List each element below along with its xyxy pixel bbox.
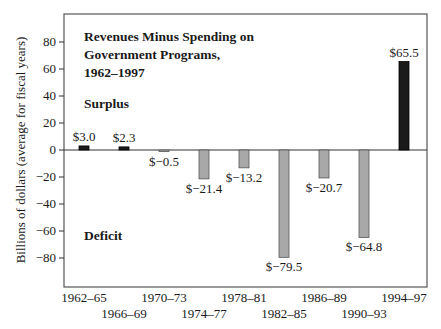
- x-tick-label: 1970–73: [134, 290, 194, 306]
- surplus-annotation: Surplus: [84, 95, 129, 113]
- bar: [199, 150, 209, 179]
- x-tick-label: 1982–85: [254, 306, 314, 322]
- y-axis-label: Billions of dollars (average for fiscal …: [13, 20, 29, 280]
- value-label: $−0.5: [139, 154, 189, 170]
- x-tick-label: 1994–97: [374, 290, 434, 306]
- title-line: Government Programs,: [84, 46, 254, 64]
- title-line: 1962–1997: [84, 64, 254, 82]
- bar: [239, 150, 249, 168]
- value-label: $−13.2: [219, 170, 269, 186]
- bar: [359, 150, 369, 237]
- title-line: Revenues Minus Spending on: [84, 28, 254, 46]
- bar: [319, 150, 329, 178]
- value-label: $−20.7: [299, 180, 349, 196]
- x-tick-label: 1978–81: [214, 290, 274, 306]
- value-label: $65.5: [379, 45, 429, 61]
- bar: [119, 147, 129, 150]
- x-tick-label: 1974–77: [174, 306, 234, 322]
- bar: [279, 150, 289, 257]
- x-tick-label: 1986–89: [294, 290, 354, 306]
- x-tick-label: 1962–65: [54, 290, 114, 306]
- bar-chart: 806040200−20−40−60−80$3.01962–65$2.31966…: [0, 0, 441, 329]
- value-label: $2.3: [99, 130, 149, 146]
- bar: [159, 150, 169, 152]
- value-label: $−79.5: [259, 259, 309, 275]
- bar: [79, 146, 89, 150]
- x-tick-label: 1990–93: [334, 306, 394, 322]
- bar: [399, 62, 409, 150]
- deficit-annotation: Deficit: [84, 227, 122, 245]
- chart-title: Revenues Minus Spending on Government Pr…: [84, 28, 254, 82]
- value-label: $−64.8: [339, 239, 389, 255]
- x-tick-label: 1966–69: [94, 306, 154, 322]
